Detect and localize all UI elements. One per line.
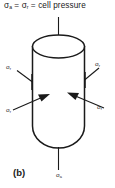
- specimen-drawing: [0, 0, 115, 188]
- label-radial-bottom-right: σr: [97, 104, 102, 112]
- triaxial-specimen-figure: σa = σr = cell pressure σr σr σr: [0, 0, 115, 188]
- figure-caption: (b): [13, 168, 25, 178]
- label-radial-top-right: σr: [95, 61, 100, 69]
- label-radial-top-right-subscript: r: [99, 64, 100, 68]
- cylinder-top-ellipse: [33, 35, 85, 58]
- label-axial-bottom-subscript: a: [60, 175, 62, 179]
- label-radial-bottom-left: σr: [6, 107, 11, 115]
- label-radial-bottom-right-subscript: r: [101, 107, 102, 111]
- label-radial-top-left-subscript: r: [10, 67, 11, 71]
- upper-right-radial-leader: [85, 68, 100, 80]
- label-axial-bottom: σa: [56, 172, 62, 180]
- label-radial-bottom-left-subscript: r: [10, 110, 11, 114]
- upper-left-radial-leader: [17, 71, 33, 83]
- label-radial-top-left: σr: [6, 64, 11, 72]
